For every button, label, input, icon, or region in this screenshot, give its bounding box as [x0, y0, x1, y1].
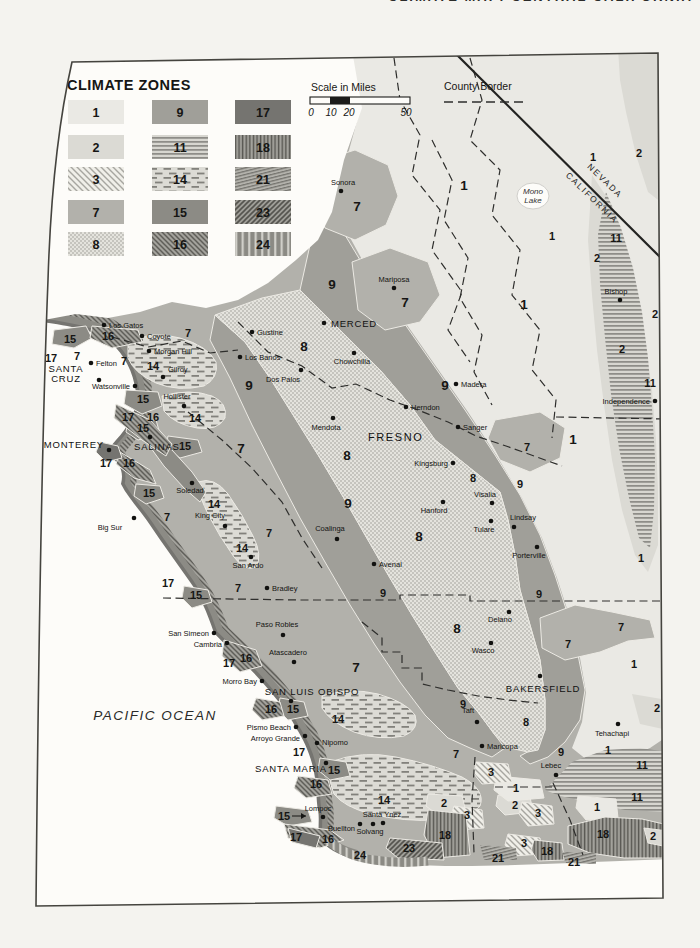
- zone-label-16: 16: [322, 833, 334, 845]
- zone-label-15: 15: [278, 810, 290, 822]
- legend-title: CLIMATE ZONES: [67, 77, 191, 93]
- legend-swatch-17: 17: [235, 100, 291, 124]
- city-label-monterey: MONTEREY: [44, 439, 104, 450]
- city-santa-maria: SANTA MARIA: [255, 761, 328, 774]
- city-morgan-hill: Morgan Hill: [147, 347, 193, 356]
- city-label-buellton: Buellton: [328, 824, 355, 833]
- zone-label-2: 2: [650, 830, 656, 842]
- city-label-bradley: Bradley: [272, 584, 298, 593]
- city-label-herndon: Herndon: [411, 403, 440, 412]
- legend-swatch-label-24: 24: [256, 238, 270, 252]
- legend-swatch-14: 14: [152, 167, 208, 191]
- city-dot-solvang: [371, 822, 376, 827]
- city-label-lebec: Lebec: [541, 761, 562, 770]
- city-label-mariposa: Mariposa: [379, 275, 411, 284]
- zone-label-16: 16: [123, 457, 135, 469]
- city-dot-san-ardo: [249, 555, 254, 560]
- zone-label-2: 2: [619, 343, 625, 355]
- scale-title: Scale in Miles: [311, 81, 376, 93]
- zone-label-7: 7: [401, 295, 409, 310]
- legend-swatch-label-3: 3: [93, 173, 100, 187]
- zone-label-2: 2: [654, 702, 660, 714]
- legend-swatch-label-1: 1: [93, 106, 100, 120]
- city-label-paso-robles: Paso Robles: [256, 620, 299, 629]
- legend-swatch-label-9: 9: [177, 106, 184, 120]
- zone-label-3: 3: [521, 837, 527, 849]
- zone-label-16: 16: [102, 330, 114, 342]
- scale-tick: 0: [308, 107, 314, 118]
- legend-swatch-8: 8: [68, 232, 124, 256]
- zone-label-7: 7: [185, 327, 191, 339]
- city-label-king-city: King City: [195, 511, 225, 520]
- city-label-madera: Madera: [461, 380, 487, 389]
- zone-label-2: 2: [636, 147, 642, 159]
- city-dot-hanford: [441, 500, 446, 505]
- city-dot-sanger: [456, 425, 461, 430]
- city-dot-soledad: [190, 481, 195, 486]
- county-border-label: County Border: [444, 80, 512, 92]
- city-dot-lompoc: [321, 815, 326, 820]
- zone-label-15: 15: [143, 487, 155, 499]
- city-independence: Independence: [602, 397, 657, 406]
- zone-label-17: 17: [122, 411, 134, 423]
- city-label-lindsay: Lindsay: [510, 513, 536, 522]
- city-label-delano: Delano: [488, 615, 512, 624]
- zone-label-17: 17: [100, 457, 112, 469]
- city-dot-big-sur: [132, 516, 137, 521]
- zone-label-8: 8: [415, 529, 423, 544]
- scale-bar-segment: [330, 97, 350, 104]
- city-label-coalinga: Coalinga: [315, 524, 345, 533]
- city-dot-paso-robles: [281, 633, 286, 638]
- zone-label-9: 9: [441, 378, 449, 393]
- city-label-san-simeon: San Simeon: [168, 629, 209, 638]
- zone-label-7: 7: [74, 350, 80, 362]
- city-dot-buellton: [358, 822, 363, 827]
- legend-swatch-label-23: 23: [256, 206, 270, 220]
- legend-swatch-label-14: 14: [173, 173, 187, 187]
- zone-label-7: 7: [235, 582, 241, 594]
- city-label-pismo-beach: Pismo Beach: [247, 723, 291, 732]
- city-dot-lindsay: [512, 525, 517, 530]
- zone-label-24: 24: [354, 849, 367, 861]
- zone-label-7: 7: [164, 511, 170, 523]
- zone-label-16: 16: [240, 652, 252, 664]
- zone-label-21: 21: [568, 856, 580, 868]
- zone-label-8: 8: [523, 716, 529, 728]
- city-label-felton: Felton: [96, 359, 117, 368]
- city-label-sanger: Sanger: [463, 423, 488, 432]
- city-label-independence: Independence: [602, 397, 650, 406]
- city-label-solvang: Solvang: [356, 827, 383, 836]
- zone-label-18: 18: [541, 845, 553, 857]
- zone-label-15: 15: [190, 589, 202, 601]
- city-dot-merced: [322, 321, 327, 326]
- zone-label-7: 7: [565, 638, 571, 650]
- city-label-salinas: SALINAS: [134, 441, 180, 452]
- zone-label-15: 15: [137, 422, 149, 434]
- city-dot-tehachapi: [616, 722, 621, 727]
- zone-label-11: 11: [631, 791, 643, 803]
- legend-swatch-11: 11: [152, 135, 208, 159]
- zone-label-14: 14: [208, 498, 221, 510]
- city-dot-arroyo-grande: [303, 734, 308, 739]
- city-dot-independence: [653, 399, 658, 404]
- legend-swatch-21: 21: [235, 167, 291, 191]
- city-label-coyote: Coyote: [147, 332, 171, 341]
- zone-label-8: 8: [470, 472, 476, 484]
- zone-label-18: 18: [439, 829, 451, 841]
- legend-swatch-18: 18: [235, 135, 291, 159]
- city-label-sonora: Sonora: [331, 178, 356, 187]
- mono-lake-label-line2: Lake: [524, 196, 542, 205]
- ocean-label: PACIFIC OCEAN: [93, 708, 217, 723]
- zone-label-8: 8: [453, 621, 461, 636]
- zone-label-9: 9: [536, 588, 542, 600]
- zone-label-9: 9: [245, 378, 253, 393]
- legend-swatch-23: 23: [235, 200, 291, 224]
- city-label-morgan-hill: Morgan Hill: [154, 347, 192, 356]
- legend-swatches: 123789111415161718212324: [68, 100, 291, 256]
- zone-label-18: 18: [597, 828, 609, 840]
- zone-label-17: 17: [290, 831, 302, 843]
- city-dot-gilroy: [161, 375, 166, 380]
- zone-label-23: 23: [403, 842, 415, 854]
- zone-label-9: 9: [344, 496, 352, 511]
- legend-swatch-3: 3: [68, 167, 124, 191]
